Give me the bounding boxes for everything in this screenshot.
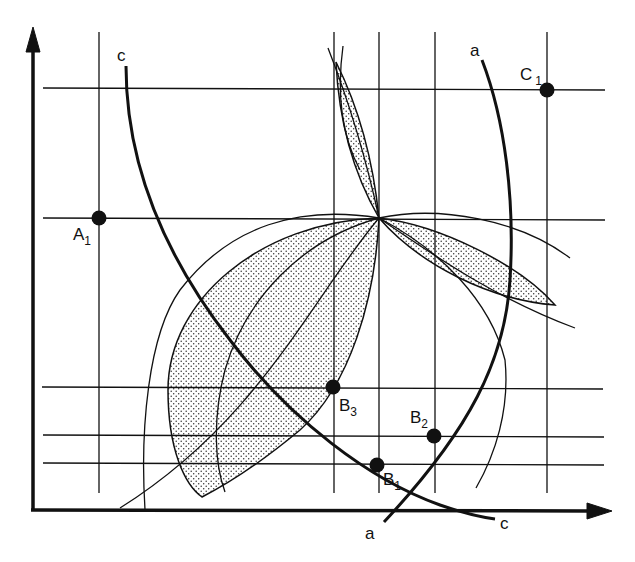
label-B3: B3	[339, 396, 357, 419]
y-axis-arrow-icon	[26, 27, 40, 52]
x-axis	[31, 510, 590, 511]
x-axis-arrow-icon	[587, 503, 612, 519]
geometric-diagram: c c a a A1 C1 B3 B2 B1	[0, 0, 635, 562]
point-B2	[427, 429, 442, 444]
label-B2: B2	[410, 408, 428, 431]
curve-a-label-bottom: a	[365, 524, 375, 543]
label-C1: C1	[520, 65, 542, 88]
shaded-regions	[168, 62, 555, 497]
curve-a-label-top: a	[470, 41, 480, 60]
point-B3	[326, 380, 341, 395]
label-B1: B1	[383, 470, 401, 493]
gridline-horizontal	[43, 218, 605, 220]
right-lens	[379, 218, 555, 305]
curve-c-label-bottom: c	[500, 514, 509, 533]
curve-c-label-top: c	[117, 46, 126, 65]
gridline-horizontal	[43, 463, 604, 465]
point-A1	[92, 211, 107, 226]
label-A1: A1	[73, 225, 91, 248]
